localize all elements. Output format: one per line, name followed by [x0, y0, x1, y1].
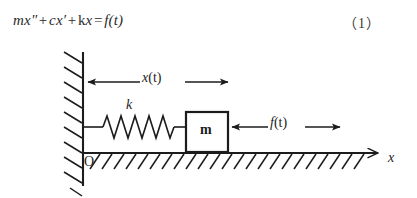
spring-coils — [103, 116, 174, 138]
ground-hatching — [90, 154, 364, 169]
origin-label: O — [84, 154, 94, 170]
equation-stiffness-term: k — [78, 12, 86, 28]
force-label: f(t) — [270, 115, 287, 131]
displacement-label: x(t) — [142, 70, 161, 86]
governing-equation: mx″+cx′+kx=f(t) — [13, 12, 123, 29]
equation-x-first-derivative: x′ — [56, 12, 66, 28]
mass-spring-damper-figure: mx″+cx′+kx=f(t) （1） x(t) k m f(t) O x — [0, 0, 417, 198]
mass-label: m — [200, 122, 212, 138]
spring-constant-label: k — [126, 97, 132, 113]
equation-number: （1） — [343, 12, 381, 32]
wall-hatching — [64, 52, 82, 196]
spring-element — [84, 116, 186, 138]
equation-damping-term: c — [49, 12, 56, 28]
wall-support — [64, 52, 83, 196]
equation-x-second-derivative: x″ — [24, 12, 37, 28]
equation-forcing-term: f(t) — [104, 12, 123, 28]
equation-plus-2: + — [66, 12, 78, 28]
equation-plus-1: + — [37, 12, 49, 28]
equation-mass-term: m — [13, 12, 24, 28]
x-axis-label: x — [388, 150, 394, 166]
equation-equals: = — [92, 12, 104, 28]
ground-axis — [83, 153, 378, 169]
